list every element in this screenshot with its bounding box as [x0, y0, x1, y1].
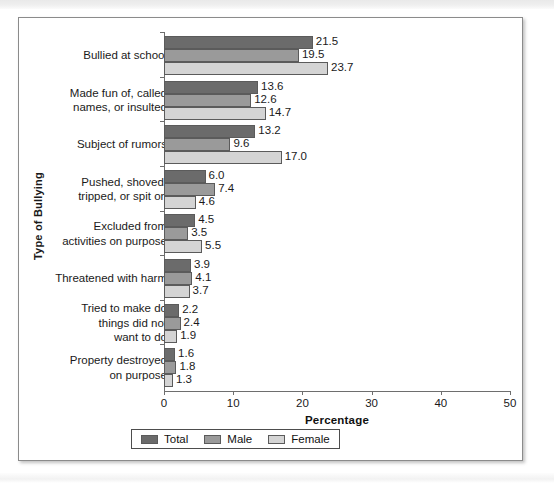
- category-label: Subject of rumors: [0, 137, 167, 152]
- category-label: Made fun of, callednames, or insulted: [0, 86, 167, 115]
- bar-value-label: 4.5: [198, 213, 214, 225]
- bar-value-label: 2.4: [184, 316, 200, 328]
- x-axis-tick-label: 50: [490, 397, 530, 409]
- x-axis-tick: [233, 391, 234, 395]
- category-label: Threatened with harm: [0, 271, 167, 286]
- bar-value-label: 21.5: [316, 35, 338, 47]
- bar-male: [164, 94, 251, 107]
- bar-value-label: 4.6: [199, 195, 215, 207]
- category-label-line: Threatened with harm: [0, 271, 167, 286]
- bar-value-label: 1.6: [178, 347, 194, 359]
- bar-value-label: 1.8: [179, 360, 195, 372]
- category-label-line: names, or insulted: [0, 100, 167, 115]
- legend-swatch-male: [204, 435, 221, 444]
- bar-value-label: 2.2: [182, 303, 198, 315]
- bar-value-label: 6.0: [209, 169, 225, 181]
- bar-male: [164, 272, 192, 285]
- bar-total: [164, 259, 191, 272]
- legend-label: Female: [291, 433, 329, 445]
- category-label-line: Pushed, shoved,: [0, 175, 167, 190]
- y-axis-group-tick: [160, 255, 165, 256]
- category-label-line: Subject of rumors: [0, 137, 167, 152]
- x-axis-tick: [164, 391, 165, 395]
- category-label-line: Tried to make do: [0, 301, 167, 316]
- category-label-line: activities on purpose: [0, 234, 167, 249]
- bar-value-label: 1.3: [176, 373, 192, 385]
- category-label-line: things did not: [0, 316, 167, 331]
- category-label: Tried to make dothings did notwant to do: [0, 301, 167, 345]
- bar-female: [164, 196, 196, 209]
- x-axis-tick: [372, 391, 373, 395]
- legend-item-female: Female: [268, 433, 329, 445]
- bar-male: [164, 49, 299, 62]
- x-axis-tick-label: 10: [213, 397, 253, 409]
- bar-value-label: 7.4: [218, 182, 234, 194]
- category-label-line: tripped, or spit on: [0, 189, 167, 204]
- x-axis-tick-label: 30: [352, 397, 392, 409]
- bar-value-label: 19.5: [302, 48, 324, 60]
- bar-total: [164, 170, 206, 183]
- bar-female: [164, 285, 190, 298]
- scan-artifact-bottom-band: [0, 473, 554, 483]
- bar-total: [164, 81, 258, 94]
- legend-item-male: Male: [204, 433, 252, 445]
- bar-value-label: 3.9: [194, 258, 210, 270]
- x-axis-tick-label: 40: [421, 397, 461, 409]
- x-axis-tick: [302, 391, 303, 395]
- bar-value-label: 13.6: [261, 80, 283, 92]
- y-axis-group-tick: [160, 211, 165, 212]
- bar-chart-plot: Type of Bullying 01020304050 Bullied at …: [19, 18, 524, 462]
- bar-total: [164, 348, 175, 361]
- y-axis-group-tick: [160, 121, 165, 122]
- bar-value-label: 12.6: [254, 93, 276, 105]
- chart-legend: TotalMaleFemale: [131, 429, 340, 449]
- x-axis-tick-label: 20: [282, 397, 322, 409]
- legend-swatch-total: [141, 435, 158, 444]
- bar-value-label: 9.6: [233, 137, 249, 149]
- category-label: Bullied at school: [0, 48, 167, 63]
- x-axis-title: Percentage: [164, 414, 510, 426]
- x-axis-tick: [510, 391, 511, 395]
- y-axis-group-tick: [160, 77, 165, 78]
- y-axis-title: Type of Bullying: [32, 141, 44, 291]
- category-label-line: on purpose: [0, 368, 167, 383]
- bar-value-label: 1.9: [180, 329, 196, 341]
- bar-value-label: 17.0: [285, 150, 307, 162]
- bar-value-label: 5.5: [205, 239, 221, 251]
- y-axis-group-tick: [160, 344, 165, 345]
- bar-value-label: 13.2: [258, 124, 280, 136]
- bar-female: [164, 107, 266, 120]
- category-label-line: Excluded from: [0, 219, 167, 234]
- legend-item-total: Total: [141, 433, 188, 445]
- legend-label: Male: [227, 433, 252, 445]
- legend-label: Total: [164, 433, 188, 445]
- bar-male: [164, 361, 176, 374]
- bar-value-label: 3.5: [191, 226, 207, 238]
- bar-male: [164, 317, 181, 330]
- category-label: Property destroyedon purpose: [0, 353, 167, 382]
- bar-value-label: 4.1: [195, 271, 211, 283]
- y-axis-group-tick: [160, 166, 165, 167]
- bar-female: [164, 62, 328, 75]
- chart-figure-frame: Type of Bullying 01020304050 Bullied at …: [18, 17, 523, 461]
- x-axis-tick-label: 0: [144, 397, 184, 409]
- bar-value-label: 23.7: [331, 61, 353, 73]
- bar-value-label: 14.7: [269, 106, 291, 118]
- bar-female: [164, 151, 282, 164]
- bar-value-label: 3.7: [193, 284, 209, 296]
- y-axis-group-tick: [160, 32, 165, 33]
- bar-female: [164, 330, 177, 343]
- bar-female: [164, 240, 202, 253]
- scan-artifact-top-band: [0, 0, 554, 9]
- bar-female: [164, 374, 173, 387]
- category-label-line: Property destroyed: [0, 353, 167, 368]
- category-label: Pushed, shoved,tripped, or spit on: [0, 175, 167, 204]
- category-label: Excluded fromactivities on purpose: [0, 219, 167, 248]
- bar-male: [164, 227, 188, 240]
- category-label-line: Bullied at school: [0, 48, 167, 63]
- category-label-line: want to do: [0, 330, 167, 345]
- bar-total: [164, 304, 179, 317]
- x-axis-tick: [441, 391, 442, 395]
- bar-male: [164, 138, 230, 151]
- bar-total: [164, 36, 313, 49]
